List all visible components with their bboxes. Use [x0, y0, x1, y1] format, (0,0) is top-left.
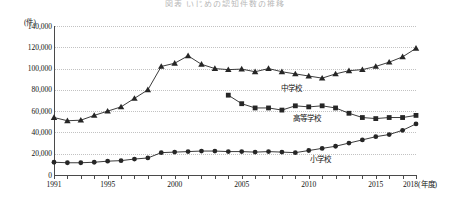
data-point-marker — [65, 160, 70, 165]
data-point-marker — [306, 104, 311, 109]
data-point-marker — [52, 160, 57, 165]
data-point-marker — [239, 149, 244, 154]
data-point-marker — [399, 54, 405, 60]
data-point-marker — [320, 103, 325, 108]
data-point-marker — [400, 128, 405, 133]
data-point-marker — [333, 144, 338, 149]
data-point-marker — [105, 159, 110, 164]
data-point-marker — [226, 93, 231, 98]
data-point-marker — [360, 115, 365, 120]
data-point-marker — [145, 156, 150, 161]
data-point-marker — [199, 149, 204, 154]
series-circle — [52, 122, 419, 166]
data-point-marker — [238, 66, 244, 72]
data-point-marker — [320, 146, 325, 151]
data-point-marker — [131, 95, 137, 101]
data-point-marker — [253, 106, 258, 111]
data-point-marker — [51, 114, 57, 120]
data-point-marker — [78, 160, 83, 165]
data-point-marker — [280, 150, 285, 155]
series-line — [54, 124, 416, 163]
data-point-marker — [387, 132, 392, 137]
data-point-marker — [172, 150, 177, 155]
series-label-high-school: 高等学校 — [293, 114, 321, 123]
data-point-marker — [212, 149, 217, 154]
data-point-marker — [119, 158, 124, 163]
data-point-marker — [186, 149, 191, 154]
data-point-marker — [132, 157, 137, 162]
series-triangle — [51, 45, 419, 123]
data-point-marker — [414, 122, 419, 127]
data-point-marker — [239, 101, 244, 106]
data-point-marker — [400, 115, 405, 120]
data-point-marker — [414, 113, 419, 118]
data-point-marker — [266, 106, 271, 111]
data-point-marker — [266, 149, 271, 154]
data-point-marker — [145, 87, 151, 93]
data-point-marker — [373, 134, 378, 139]
data-point-marker — [171, 60, 177, 66]
data-point-marker — [360, 137, 365, 142]
data-point-marker — [373, 116, 378, 121]
data-point-marker — [198, 61, 204, 67]
data-point-marker — [293, 150, 298, 155]
data-point-marker — [306, 148, 311, 153]
series-plot-area — [0, 0, 449, 202]
data-point-marker — [293, 103, 298, 108]
data-point-marker — [347, 141, 352, 146]
data-point-marker — [386, 59, 392, 65]
data-point-marker — [253, 150, 258, 155]
data-point-marker — [333, 106, 338, 111]
data-point-marker — [387, 115, 392, 120]
data-point-marker — [159, 150, 164, 155]
data-point-marker — [185, 53, 191, 59]
data-point-marker — [92, 160, 97, 165]
data-point-marker — [265, 65, 271, 71]
chart-container: 図表 いじめの認知件数の推移 (件) 020,00040,00060,00080… — [0, 0, 449, 202]
series-label-junior-high: 中学校 — [281, 84, 302, 93]
data-point-marker — [347, 111, 352, 116]
series-label-elementary: 小学校 — [310, 155, 331, 164]
data-point-marker — [280, 108, 285, 113]
data-point-marker — [226, 149, 231, 154]
data-point-marker — [118, 104, 124, 110]
data-point-marker — [413, 45, 419, 51]
series-square — [226, 93, 419, 121]
